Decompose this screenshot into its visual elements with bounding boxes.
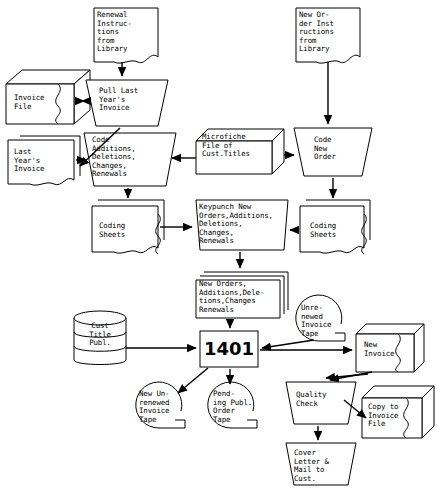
shape-pull-last-years-invoice [86,80,168,126]
edge-1401-to-newunrenewed [178,368,208,393]
shape-cover-letter-mail [286,443,356,485]
shape-copy-to-invoice-file [362,386,434,438]
edge-newinvoice-to-quality [326,372,372,380]
shape-invoice-file [6,70,90,124]
shape-cust-title-publ [74,311,126,365]
shape-new-invoice [356,324,424,372]
edge-tape-to-1401 [262,340,314,348]
shape-computer-1401 [200,331,258,367]
shape-code-additions [84,133,176,186]
shape-unrenewed-invoice-tape [296,295,345,341]
shape-renewal-instructions [94,8,158,63]
shape-keypunch [196,200,288,250]
flowchart-svg [0,0,437,492]
shape-coding-sheets-right [300,200,370,254]
shape-new-unrenewed-invoice-tape [136,382,185,428]
shape-pending-publ-order-tape [208,382,257,428]
shape-code-new-order [294,128,372,176]
shape-last-years-invoice [8,136,80,185]
shape-punched-cards [196,272,288,318]
shape-coding-sheets-left [92,200,164,254]
shape-microfiche-file [196,129,284,174]
shape-quality-check [286,382,356,424]
shape-new-order-instructions [296,8,360,63]
flowchart-canvas: Renewal Instruc- tions from Library New … [0,0,437,492]
